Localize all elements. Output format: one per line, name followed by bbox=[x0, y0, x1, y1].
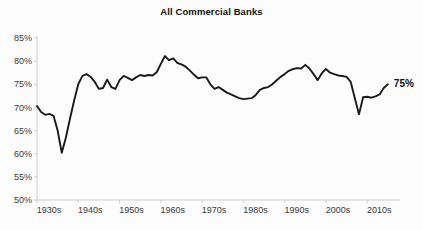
end-value-label: 75% bbox=[394, 78, 414, 89]
x-tick-label: 1980s bbox=[243, 205, 268, 215]
y-tick-label: 60% bbox=[14, 149, 32, 159]
x-tick-label: 1990s bbox=[284, 205, 309, 215]
x-tick-label: 1930s bbox=[37, 205, 62, 215]
chart-container: All Commercial Banks 85%80%75%70%65%60%5… bbox=[0, 0, 423, 230]
data-series-group bbox=[37, 56, 388, 153]
annotation-group: 75% bbox=[394, 78, 414, 89]
y-axis: 85%80%75%70%65%60%55%50% bbox=[14, 33, 37, 205]
x-tick-label: 1960s bbox=[161, 205, 186, 215]
y-tick-label: 80% bbox=[14, 56, 32, 66]
x-tick-label: 1950s bbox=[119, 205, 144, 215]
x-tick-label: 2010s bbox=[367, 205, 392, 215]
x-tick-label: 2000s bbox=[326, 205, 351, 215]
x-axis: 1930s1940s1950s1960s1970s1980s1990s2000s… bbox=[37, 200, 400, 215]
y-tick-label: 75% bbox=[14, 79, 32, 89]
y-tick-label: 70% bbox=[14, 103, 32, 113]
y-tick-label: 55% bbox=[14, 172, 32, 182]
y-tick-label: 65% bbox=[14, 126, 32, 136]
x-tick-label: 1940s bbox=[78, 205, 103, 215]
series-line bbox=[37, 56, 388, 153]
line-chart-plot: 85%80%75%70%65%60%55%50% 1930s1940s1950s… bbox=[0, 0, 423, 230]
x-tick-label: 1970s bbox=[202, 205, 227, 215]
y-tick-label: 85% bbox=[14, 33, 32, 43]
y-tick-label: 50% bbox=[14, 195, 32, 205]
